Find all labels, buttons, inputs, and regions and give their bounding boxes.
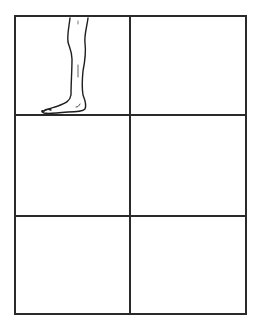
grid-cell-r3-c2 xyxy=(130,217,247,315)
grid-cell-r3-c1 xyxy=(14,217,130,315)
grid-cell-r2-c1 xyxy=(14,116,130,216)
grid-cell-r1-c2 xyxy=(130,15,247,115)
leg-foot-drawing-icon xyxy=(38,15,98,115)
grid-cell-r2-c2 xyxy=(130,116,247,216)
